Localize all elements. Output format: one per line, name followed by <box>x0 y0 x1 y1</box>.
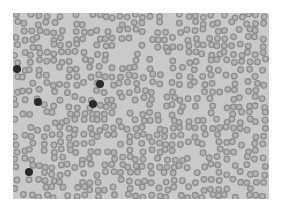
microscopy-image: Grayscale light-microscopy blood smear s… <box>13 13 269 199</box>
blood-cells-layer <box>13 13 269 199</box>
